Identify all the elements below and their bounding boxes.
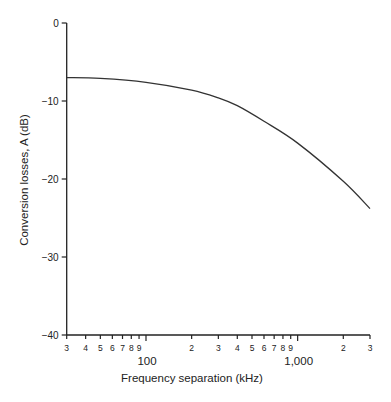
x-tick-label: 4 [83, 343, 88, 353]
x-tick-label: 2 [189, 343, 194, 353]
x-tick-label: 5 [250, 343, 255, 353]
chart: 0−10−20−30−40 345678923456789231001,000 … [0, 0, 391, 402]
data-line [67, 78, 370, 209]
y-tick-label: −20 [42, 174, 59, 185]
x-tick-label: 8 [281, 343, 286, 353]
x-tick-label: 5 [98, 343, 103, 353]
x-tick-label: 2 [341, 343, 346, 353]
y-axis: 0−10−20−30−40 [42, 18, 67, 341]
x-major-label: 100 [137, 355, 156, 367]
x-tick-label: 9 [288, 343, 293, 353]
y-axis-title: Conversion losses, A (dB) [18, 114, 30, 246]
x-tick-label: 3 [368, 343, 373, 353]
x-axis-title: Frequency separation (kHz) [121, 372, 263, 384]
x-tick-label: 9 [137, 343, 142, 353]
y-tick-label: −10 [42, 96, 59, 107]
x-tick-label: 3 [64, 343, 69, 353]
y-tick-label: −30 [42, 252, 59, 263]
y-tick-label: 0 [53, 18, 59, 29]
x-tick-label: 7 [120, 343, 125, 353]
x-tick-label: 6 [262, 343, 267, 353]
x-tick-label: 6 [110, 343, 115, 353]
x-major-label: 1,000 [284, 355, 313, 367]
x-axis: 345678923456789231001,000 [64, 335, 372, 367]
x-tick-label: 8 [129, 343, 134, 353]
x-tick-label: 3 [216, 343, 221, 353]
y-tick-label: −40 [42, 330, 59, 341]
x-tick-label: 7 [272, 343, 277, 353]
x-tick-label: 4 [235, 343, 240, 353]
